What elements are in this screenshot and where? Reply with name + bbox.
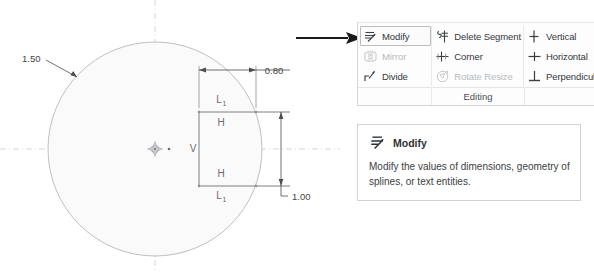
cad-drawing-canvas: 0.80 1.00 1.50 L 1 H V H L 1 [0, 0, 340, 273]
height-dimension-text: 1.00 [292, 191, 311, 202]
ribbon-item-delete-segment[interactable]: Delete Segment [432, 26, 523, 46]
height-dimension-line [279, 112, 288, 196]
ribbon-item-corner-label: Corner [454, 51, 482, 62]
circle-dimension-text: 1.50 [22, 53, 41, 64]
ribbon-item-rotate-resize-label: Rotate Resize [454, 71, 512, 82]
ribbon-item-mirror-label: Mirror [382, 51, 406, 62]
tooltip-title: Modify [393, 137, 427, 149]
delete-segment-icon [435, 29, 450, 44]
mirror-icon [363, 49, 378, 64]
ribbon-item-rotate-resize[interactable]: Rotate Resize [432, 66, 523, 86]
tooltip-header: Modify [369, 134, 570, 151]
ribbon-item-corner[interactable]: Corner [432, 46, 523, 66]
ribbon-rows: Modify Mirror [358, 23, 594, 87]
corner-icon [435, 49, 450, 64]
ribbon-column-a: Modify Mirror [360, 26, 431, 86]
cad-drawing-svg: 0.80 1.00 1.50 L 1 H V H L 1 [0, 0, 340, 273]
perpendicular-constraint-icon [527, 69, 542, 84]
constraint-top-horizontal: H [217, 117, 224, 128]
ribbon-item-modify[interactable]: Modify [360, 26, 431, 46]
modify-icon [369, 134, 386, 151]
constraint-vertical: V [190, 143, 197, 154]
ribbon-column-c: Vertical Horizontal Pe [523, 26, 594, 86]
modify-tooltip: Modify Modify the values of dimensions, … [357, 124, 581, 201]
rotate-resize-icon [435, 69, 450, 84]
modify-icon [363, 29, 378, 44]
ribbon-item-vertical-label: Vertical [546, 31, 576, 42]
ribbon-item-horizontal-label: Horizontal [546, 51, 588, 62]
ribbon-item-perpendicular[interactable]: Perpendicular [524, 66, 594, 86]
constraint-bottom-horizontal: H [217, 168, 224, 179]
width-dimension-text: 0.80 [265, 65, 284, 76]
constraint-top-length: L [216, 94, 222, 105]
ribbon-item-perpendicular-label: Perpendicular [546, 71, 594, 82]
ribbon-item-delete-segment-label: Delete Segment [454, 31, 521, 42]
editing-ribbon-panel: Modify Mirror [357, 22, 594, 106]
divide-icon [363, 69, 378, 84]
ribbon-item-modify-label: Modify [382, 31, 409, 42]
ribbon-item-horizontal[interactable]: Horizontal [524, 46, 594, 66]
ribbon-group-label: Editing [431, 88, 523, 105]
ribbon-group-spacer-right [524, 88, 594, 105]
ribbon-group-footer: Editing [358, 87, 594, 105]
vertical-constraint-icon [527, 29, 542, 44]
constraint-bottom-length-subscript: 1 [223, 196, 227, 203]
constraint-bottom-length: L [216, 190, 222, 201]
tooltip-description: Modify the values of dimensions, geometr… [369, 160, 570, 189]
ribbon-item-vertical[interactable]: Vertical [524, 26, 594, 46]
ribbon-group-spacer-left [358, 88, 431, 105]
ribbon-item-mirror[interactable]: Mirror [360, 46, 431, 66]
constraint-top-length-subscript: 1 [223, 100, 227, 107]
ribbon-item-divide[interactable]: Divide [360, 66, 431, 86]
horizontal-constraint-icon [527, 49, 542, 64]
ribbon-column-b: Delete Segment Corner [431, 26, 523, 86]
ribbon-item-divide-label: Divide [382, 71, 408, 82]
circle-dimension-leader [46, 60, 77, 77]
pointer-arrow-icon [296, 31, 362, 45]
